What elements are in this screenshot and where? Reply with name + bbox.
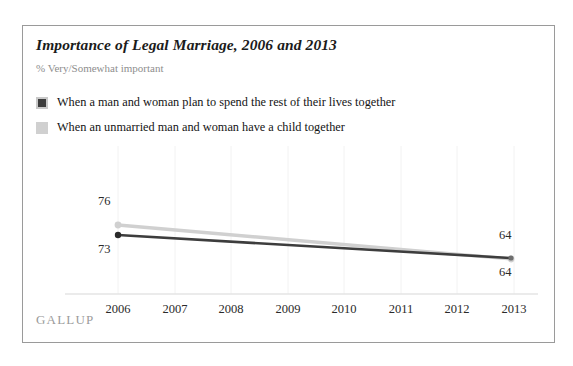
chart-card: Importance of Legal Marriage, 2006 and 2… [22,25,555,343]
legend-item-dark[interactable]: When a man and woman plan to spend the r… [36,90,536,115]
x-tick-2006: 2006 [106,302,131,317]
data-point-light-2006 [115,222,122,229]
legend-label-light: When an unmarried man and woman have a c… [57,120,345,135]
x-tick-2007: 2007 [163,302,188,317]
gallup-brand: GALLUP [36,312,94,328]
chart-screenshot: Importance of Legal Marriage, 2006 and 2… [0,0,573,366]
legend-swatch-light-icon [36,122,48,134]
x-tick-2010: 2010 [332,302,357,317]
x-tick-2008: 2008 [219,302,244,317]
chart-legend: When a man and woman plan to spend the r… [36,90,536,140]
gridlines [118,146,514,294]
data-label-light-2006: 76 [98,194,111,209]
plot-area: 76 73 64 64 [43,146,538,298]
x-tick-2011: 2011 [389,302,414,317]
chart-title: Importance of Legal Marriage, 2006 and 2… [36,36,337,54]
line-chart-svg [43,146,538,298]
legend-item-light[interactable]: When an unmarried man and woman have a c… [36,115,536,140]
x-tick-2009: 2009 [276,302,301,317]
legend-swatch-dark-icon [36,97,48,109]
x-tick-2012: 2012 [445,302,470,317]
data-label-dark-2013: 64 [499,228,512,243]
x-axis-labels: 2006 2007 2008 2009 2010 2011 2012 2013 [43,302,538,324]
data-point-dark-2013 [508,255,513,260]
data-label-dark-2006: 73 [98,242,111,257]
data-label-light-2013: 64 [499,265,512,280]
legend-label-dark: When a man and woman plan to spend the r… [57,95,395,110]
chart-subtitle: % Very/Somewhat important [36,62,164,74]
x-tick-2013: 2013 [502,302,527,317]
data-point-dark-2006 [115,232,121,238]
